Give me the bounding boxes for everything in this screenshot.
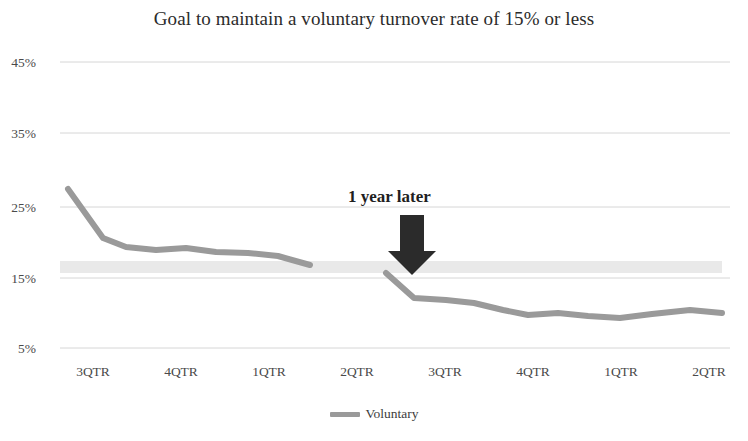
series-line-voluntary-part1: [68, 189, 310, 265]
series-line-voluntary-part2: [386, 273, 722, 318]
legend-swatch-voluntary: [330, 412, 360, 417]
one-year-later-annotation-label: 1 year later: [348, 187, 431, 207]
goal-threshold-band: [60, 261, 722, 273]
chart-legend: Voluntary: [0, 406, 748, 422]
turnover-rate-line-chart: Goal to maintain a voluntary turnover ra…: [0, 0, 748, 441]
plot-area: [0, 0, 748, 441]
legend-label-voluntary: Voluntary: [366, 406, 419, 422]
